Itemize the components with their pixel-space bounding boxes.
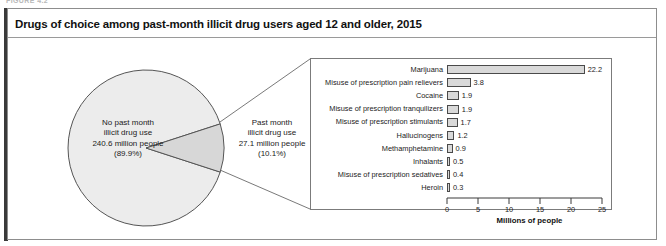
bar-and-value: 1.9 [447,91,472,100]
pie-label-no-use-line2: illicit drug use [58,128,198,138]
x-tick-10: 10 [497,205,521,214]
bar-value-label: 3.8 [474,78,484,87]
bar-row: Hallucinogens1.2 [310,130,612,142]
bar-category-label: Methamphetamine [310,143,447,155]
bar-category-label: Misuse of prescription sedatives [310,169,447,181]
bar-and-value: 0.4 [447,170,463,179]
bar [447,183,450,192]
bar-row: Methamphetamine0.9 [310,143,612,155]
bar [447,170,450,179]
bar [447,131,454,140]
pie-label-no-use-line4: (89.9%) [58,149,198,159]
bar-row: Misuse of prescription tranquilizers1.9 [310,103,612,115]
bar-category-label: Marijuana [310,64,447,76]
bar-row: Misuse of prescription sedatives0.4 [310,169,612,181]
bar-category-label: Misuse of prescription stimulants [310,116,447,128]
bar-value-label: 0.4 [453,170,463,179]
bar [447,78,471,87]
x-tick-25: 25 [590,205,614,214]
bar-category-label: Misuse of prescription pain relievers [310,77,447,89]
bar-and-value: 0.3 [447,183,463,192]
bar-category-label: Misuse of prescription tranquilizers [310,103,447,115]
bar-value-label: 22.2 [588,65,602,74]
x-tick-20: 20 [559,205,583,214]
bar-category-label: Cocaine [310,90,447,102]
bar-row: Misuse of prescription pain relievers3.8 [310,77,612,89]
bar-value-label: 1.2 [457,131,467,140]
bar-and-value: 0.5 [447,157,463,166]
bar [447,157,450,166]
x-axis-title: Millions of people [447,216,612,225]
bar-chart: 0 5 10 15 20 25 Millions of people Marij… [310,58,612,236]
bar-row: Heroin0.3 [310,182,612,194]
figure-root: FIGURE 4.2 Drugs of choice among past-mo… [0,0,666,246]
bar-category-label: Inhalants [310,156,447,168]
bar-category-label: Heroin [310,182,447,194]
bar-and-value: 0.9 [447,144,466,153]
bar-value-label: 1.9 [462,91,472,100]
bar-and-value: 1.7 [447,118,471,127]
bar [447,105,459,114]
x-tick-0: 0 [435,205,459,214]
bar [447,118,458,127]
bar-row: Inhalants0.5 [310,156,612,168]
bar-value-label: 1.9 [462,105,472,114]
bar-and-value: 3.8 [447,78,484,87]
pie-label-no-use-line3: 240.6 million people [58,139,198,149]
bar-row: Cocaine1.9 [310,90,612,102]
bar-and-value: 1.2 [447,131,468,140]
bar-value-label: 0.5 [453,157,463,166]
bar-value-label: 0.9 [456,144,466,153]
bar-value-label: 1.7 [461,118,471,127]
x-tick-15: 15 [528,205,552,214]
bar-category-label: Hallucinogens [310,130,447,142]
pie-label-no-use: No past month illicit drug use 240.6 mil… [58,118,198,160]
bar [447,65,585,74]
bar-value-label: 0.3 [453,183,463,192]
bar [447,91,459,100]
bar-row: Misuse of prescription stimulants1.7 [310,116,612,128]
bar [447,144,453,153]
pie-chart: No past month illicit drug use 240.6 mil… [60,62,232,234]
bar-row: Marijuana22.2 [310,64,612,76]
x-tick-5: 5 [466,205,490,214]
bar-and-value: 1.9 [447,105,472,114]
bar-and-value: 22.2 [447,65,602,74]
pie-label-no-use-line1: No past month [58,118,198,128]
